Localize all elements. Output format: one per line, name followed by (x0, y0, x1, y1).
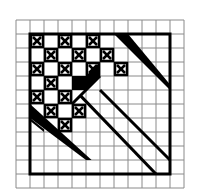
quilt-diagram (0, 0, 199, 193)
black-square (72, 76, 86, 90)
